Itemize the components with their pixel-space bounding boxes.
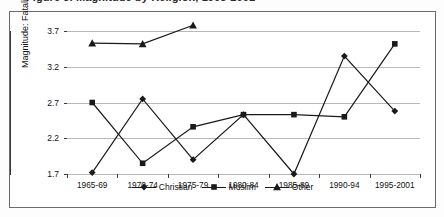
triangle-marker bbox=[189, 21, 197, 28]
diamond-marker bbox=[140, 184, 147, 191]
legend-item-christian[interactable]: Christian bbox=[132, 182, 193, 192]
square-marker bbox=[291, 112, 297, 118]
legend-label: Christian bbox=[158, 182, 193, 192]
legend-item-muslim[interactable]: Muslim bbox=[202, 182, 256, 192]
legend-square-icon bbox=[202, 183, 226, 191]
page-title: Figure 3. Magnitude by Religion, 1965-20… bbox=[26, 0, 255, 3]
square-marker bbox=[342, 114, 348, 120]
legend-label: Other bbox=[291, 182, 314, 192]
diamond-marker bbox=[89, 169, 96, 176]
chart-legend: ChristianMuslimOther bbox=[10, 182, 435, 192]
square-marker bbox=[89, 100, 95, 106]
chart-figure: Figure 3. Magnitude by Religion, 1965-20… bbox=[0, 0, 444, 217]
square-marker bbox=[392, 41, 398, 47]
figure-title-cropped: Figure 3. Magnitude by Religion, 1965-20… bbox=[0, 0, 444, 9]
legend-item-other[interactable]: Other bbox=[265, 182, 314, 192]
legend-triangle-icon bbox=[265, 183, 289, 191]
legend-diamond-icon bbox=[132, 183, 156, 191]
legend-label: Muslim bbox=[228, 182, 256, 192]
chart-frame: Magnitude: Fatalities Scale 1.72.22.73.2… bbox=[9, 11, 436, 208]
square-marker bbox=[241, 112, 247, 118]
square-marker bbox=[211, 184, 217, 190]
triangle-marker bbox=[273, 183, 281, 190]
series-plot-area bbox=[10, 12, 435, 207]
square-marker bbox=[140, 160, 146, 166]
square-marker bbox=[190, 124, 196, 130]
